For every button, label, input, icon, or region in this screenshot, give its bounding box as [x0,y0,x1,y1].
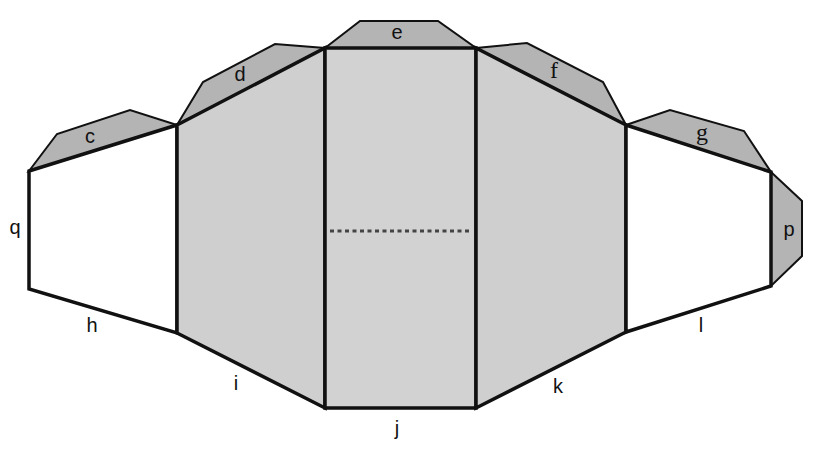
label-g: g [696,119,708,145]
label-q: q [9,216,20,238]
panel-center [325,48,476,408]
label-k: k [553,375,564,397]
net-diagram: c d e f g h i j k l p q [0,0,818,453]
label-f: f [550,57,558,83]
label-l: l [699,314,703,336]
label-d: d [234,63,245,85]
label-p: p [783,218,794,240]
label-e: e [391,21,402,43]
label-i: i [234,372,238,394]
label-h: h [86,314,97,336]
label-c: c [85,125,95,147]
label-j: j [394,417,399,439]
